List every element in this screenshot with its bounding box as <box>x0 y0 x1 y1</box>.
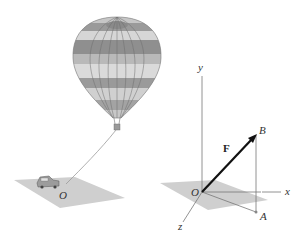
ground-plane-left <box>14 177 125 208</box>
right-scene: y x z O B A F <box>160 61 290 232</box>
car-icon <box>37 176 59 189</box>
z-axis-label: z <box>177 220 183 232</box>
balloon-basket <box>114 118 120 130</box>
x-axis-label: x <box>284 185 290 197</box>
hot-air-balloon <box>70 15 165 120</box>
origin-label-right: O <box>191 186 199 198</box>
point-a-marker <box>255 211 258 214</box>
vector-f-label: F <box>223 142 230 154</box>
origin-label-left: O <box>59 189 67 201</box>
point-a-label: A <box>259 210 267 222</box>
diagram-canvas: O y x z O B A F <box>0 0 307 236</box>
tether-rope <box>66 130 116 184</box>
left-scene: O <box>14 15 165 208</box>
y-axis-label: y <box>197 61 203 73</box>
ground-plane-right <box>160 180 268 210</box>
point-b-label: B <box>259 124 266 136</box>
